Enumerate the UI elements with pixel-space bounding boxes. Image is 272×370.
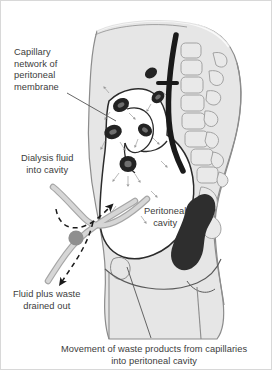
label-peritoneal-cavity: Peritoneal cavity [144, 206, 186, 229]
label-fluid-drained-out: Fluid plus waste drained out [13, 289, 80, 312]
label-capillary-network: Capillary network of peritoneal membrane [14, 47, 59, 93]
label-dialysis-fluid: Dialysis fluid into cavity [21, 153, 73, 176]
peritoneal-dialysis-figure: Capillary network of peritoneal membrane… [0, 0, 272, 370]
caption-movement-of-waste: Movement of waste products from capillar… [61, 344, 247, 367]
tube-connector [68, 230, 83, 245]
